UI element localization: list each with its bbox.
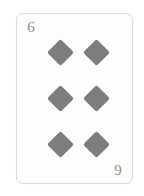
pip-cell [47, 39, 75, 67]
diamond-pip-icon [83, 39, 110, 66]
pip-cell [47, 130, 75, 158]
scene-canvas: 6 [0, 0, 144, 196]
pip-cell [82, 39, 110, 67]
diamond-pip-icon [47, 131, 74, 158]
card-face: 6 [17, 14, 132, 183]
corner-index-bottom-right: 6 [109, 161, 127, 177]
pip-cell [82, 130, 110, 158]
diamond-pip-icon [47, 85, 74, 112]
pip-grid [43, 30, 114, 167]
diamond-pip-icon [83, 85, 110, 112]
card-accessible-label: 6 of Diamonds [17, 14, 18, 15]
pip-cell [47, 84, 75, 112]
diamond-pip-icon [47, 39, 74, 66]
corner-index-top-left: 6 [22, 20, 40, 36]
corner-rank-top-left: 6 [22, 20, 40, 35]
corner-rank-bottom-right: 6 [109, 162, 127, 177]
diamond-pip-icon [83, 131, 110, 158]
pip-cell [82, 84, 110, 112]
playing-card[interactable]: 6 [16, 13, 133, 184]
